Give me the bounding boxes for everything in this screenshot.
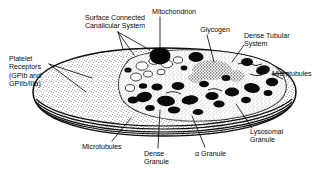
label-dense-granule: Dense Granule — [144, 150, 182, 167]
mitochondrion-body — [150, 48, 171, 65]
label-glycogen: Glycogen — [193, 26, 237, 34]
label-dense-tubular-system: Dense Tubular System — [244, 32, 310, 49]
label-surface-connected-canalicular-system: Surface Connected Canalicular System — [72, 14, 158, 31]
label-microtubules-bottom: Microtubules — [82, 143, 140, 151]
platelet-diagram-figure: Surface Connected Canalicular System Mit… — [0, 0, 330, 180]
label-platelet-receptors: Platelet Receptors (GPIb and GPIIb/IIIa) — [9, 55, 63, 89]
label-mitochondrion: Mitochondrion — [143, 8, 205, 16]
label-lysosomal-granule: Lysosomal Granule — [250, 128, 304, 145]
label-microtubules-right: Microtubules — [272, 70, 330, 78]
label-alpha-granule: α Granule — [195, 150, 241, 158]
